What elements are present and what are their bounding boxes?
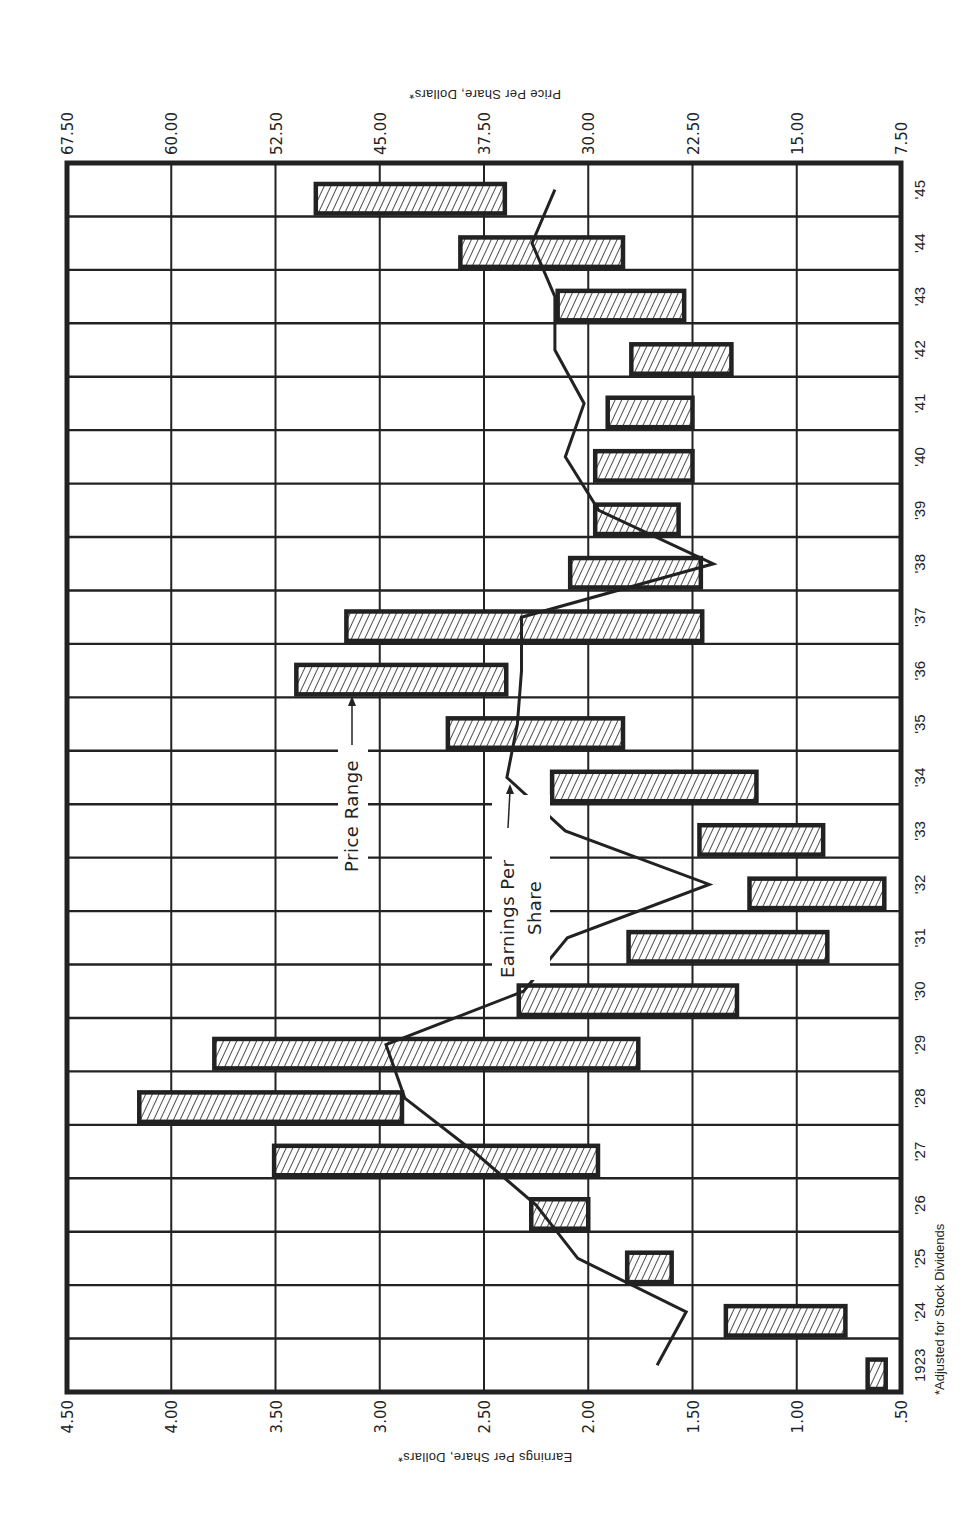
year-label: '42 (911, 340, 928, 360)
price-range-bar (608, 398, 693, 427)
year-label: '35 (911, 714, 928, 734)
price-axis-title-text: Price Per Share, Dollars* (409, 87, 561, 102)
price-range-annotation: Price Range (338, 696, 368, 882)
year-label: '32 (911, 875, 928, 895)
year-label: '36 (911, 661, 928, 681)
year-label: '37 (911, 607, 928, 627)
price-range-bar (726, 1306, 846, 1335)
price-range-bar (296, 665, 506, 694)
year-label: '44 (911, 233, 928, 253)
price-tick-label: 67.50 (59, 112, 77, 155)
price-range-label: Price Range (341, 760, 362, 872)
year-label: '45 (911, 180, 928, 200)
price-tick-label: 45.00 (372, 112, 390, 155)
price-range-bar (552, 772, 756, 801)
year-label: '30 (911, 981, 928, 1001)
earnings-tick-label: 1.00 (789, 1400, 807, 1433)
price-tick-label: 22.50 (685, 112, 703, 155)
earnings-label-line2: Share (524, 881, 545, 935)
price-tick-label: 30.00 (580, 112, 598, 155)
year-label: '33 (911, 821, 928, 841)
earnings-tick-label: 3.00 (372, 1400, 390, 1433)
year-label: '31 (911, 928, 928, 948)
price-range-bar (519, 986, 737, 1015)
year-label: '29 (911, 1035, 928, 1055)
arrowhead-icon (506, 784, 514, 794)
price-tick-label: 7.50 (893, 122, 911, 155)
price-range-bar (868, 1360, 886, 1389)
price-tick-label: 60.00 (163, 112, 181, 155)
year-label: '25 (911, 1249, 928, 1269)
price-range-bar (595, 451, 692, 480)
price-tick-label: 37.50 (476, 112, 494, 155)
earnings-tick-label: 4.50 (59, 1400, 77, 1433)
year-label: '40 (911, 447, 928, 467)
price-axis-ticks: 67.5060.0052.5045.0037.5030.0022.5015.00… (59, 112, 911, 155)
year-label: 1923 (911, 1349, 928, 1382)
year-label: '43 (911, 287, 928, 307)
year-label: '28 (911, 1088, 928, 1108)
price-range-bar (631, 344, 731, 373)
earnings-tick-label: .50 (893, 1400, 911, 1424)
year-label: '26 (911, 1195, 928, 1215)
year-label: '38 (911, 554, 928, 574)
price-range-bar (699, 825, 823, 854)
price-tick-label: 52.50 (268, 112, 286, 155)
earnings-annotation: Earnings Per Share (492, 784, 550, 980)
earnings-tick-label: 2.50 (476, 1400, 494, 1433)
price-range-bar (448, 718, 623, 747)
price-range-bar (629, 932, 828, 961)
footnote: *Adjusted for Stock Dividends (932, 1223, 947, 1395)
price-range-bars (139, 184, 885, 1389)
price-range-bar (316, 184, 505, 213)
price-tick-label: 15.00 (789, 112, 807, 155)
price-range-bar (274, 1146, 598, 1175)
price-axis-title: Price Per Share, Dollars* (409, 87, 561, 102)
year-label: '41 (911, 394, 928, 414)
earnings-axis-title: Earnings Per Share, Dollars* (398, 1450, 573, 1465)
earnings-axis-ticks: 4.504.003.503.002.502.001.501.00.50 (59, 1400, 911, 1433)
year-axis-labels: 1923'24'25'26'27'28'29'30'31'32'33'34'35… (911, 180, 928, 1382)
price-range-bar (558, 291, 684, 320)
grid (67, 163, 901, 1392)
earnings-tick-label: 2.00 (580, 1400, 598, 1433)
price-range-bar (627, 1253, 671, 1282)
earnings-tick-label: 4.00 (163, 1400, 181, 1433)
price-range-bar (139, 1092, 402, 1121)
price-range-bar (531, 1199, 588, 1228)
earnings-tick-label: 3.50 (268, 1400, 286, 1433)
price-range-bar (214, 1039, 638, 1068)
earnings-tick-label: 1.50 (685, 1400, 703, 1433)
earnings-label-line1: Earnings Per (497, 859, 518, 978)
year-label: '34 (911, 768, 928, 788)
chart: Price Per Share, Dollars* 67.5060.0052.5… (0, 0, 963, 1537)
year-label: '24 (911, 1302, 928, 1322)
year-label: '27 (911, 1142, 928, 1162)
price-range-bar (749, 879, 884, 908)
year-label: '39 (911, 501, 928, 521)
